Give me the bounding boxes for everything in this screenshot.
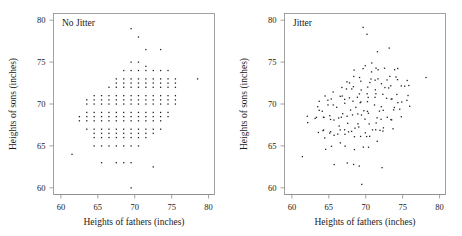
x-axis-ticks: 6065707580 <box>286 195 446 212</box>
scatterplot-figure: 6065707580 6065707580 No Jitter Heights … <box>0 0 462 236</box>
y-tick-label: 75 <box>37 57 46 67</box>
y-axis-ticks: 6065707580 <box>268 15 285 193</box>
x-tick-label: 60 <box>288 202 297 212</box>
x-tick-label: 70 <box>130 202 139 212</box>
x-tick-label: 65 <box>94 202 103 212</box>
y-tick-label: 65 <box>268 141 277 151</box>
y-tick-label: 80 <box>268 15 277 25</box>
y-axis-title: Heights of sons (inches) <box>239 58 250 150</box>
y-tick-label: 65 <box>37 141 46 151</box>
y-tick-label: 80 <box>37 15 46 25</box>
x-tick-label: 80 <box>435 202 444 212</box>
y-axis-ticks: 6065707580 <box>37 15 54 193</box>
plot-jitter: 6065707580 6065707580 Jitter Heights of … <box>231 0 462 236</box>
x-tick-label: 75 <box>167 202 176 212</box>
y-tick-label: 75 <box>268 57 277 67</box>
panel-title: Jitter <box>293 18 313 28</box>
plot-no-jitter: 6065707580 6065707580 No Jitter Heights … <box>0 0 231 236</box>
x-axis-title: Heights of fathers (inches) <box>314 217 415 228</box>
panel-no-jitter: 6065707580 6065707580 No Jitter Heights … <box>0 0 231 236</box>
plot-frame <box>54 14 215 195</box>
panel-title: No Jitter <box>62 18 96 28</box>
x-axis-title: Heights of fathers (inches) <box>83 217 184 228</box>
plot-frame <box>285 14 446 195</box>
x-tick-label: 70 <box>361 202 370 212</box>
x-tick-label: 75 <box>398 202 407 212</box>
y-tick-label: 70 <box>268 99 277 109</box>
y-tick-label: 60 <box>268 183 277 193</box>
x-tick-label: 80 <box>204 202 213 212</box>
x-axis-ticks: 6065707580 <box>55 195 215 212</box>
panel-jitter: 6065707580 6065707580 Jitter Heights of … <box>231 0 462 236</box>
x-tick-label: 60 <box>57 202 66 212</box>
y-tick-label: 60 <box>37 183 46 193</box>
x-tick-label: 65 <box>325 202 334 212</box>
y-tick-label: 70 <box>37 99 46 109</box>
y-axis-title: Heights of sons (inches) <box>8 58 19 150</box>
